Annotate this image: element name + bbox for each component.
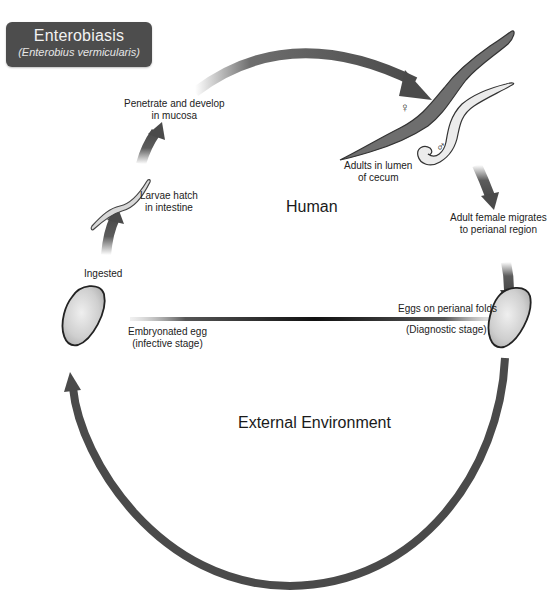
title-subtitle: (Enterobius vermicularis) <box>6 46 152 58</box>
label-eggs-perianal: Eggs on perianal folds <box>398 303 497 315</box>
label-larvae-hatch: Larvae hatch in intestine <box>140 190 198 214</box>
boundary-line <box>130 317 500 321</box>
arrow-adults-to-migrates <box>477 165 499 210</box>
female-symbol-icon: ♀ <box>400 100 410 115</box>
arrow-larvae-to-penetrate <box>141 122 165 164</box>
region-label-human: Human <box>286 198 338 216</box>
diagram-artwork <box>0 0 558 603</box>
life-cycle-diagram: Enterobiasis (Enterobius vermicularis) H… <box>0 0 558 603</box>
male-worm-illustration <box>418 83 514 165</box>
male-symbol-icon: ♂ <box>436 139 446 154</box>
label-ingested: Ingested <box>84 268 122 280</box>
arrow-eggs-to-embryonated <box>64 358 505 586</box>
region-label-external: External Environment <box>238 414 391 432</box>
label-embryonated-egg: Embryonated egg (infective stage) <box>128 326 207 350</box>
label-diagnostic-stage: (Diagnostic stage) <box>406 324 487 336</box>
arrow-penetrate-to-adults <box>195 53 432 100</box>
perianal-egg-illustration <box>489 288 531 347</box>
label-penetrate: Penetrate and develop in mucosa <box>124 98 225 122</box>
label-female-migrates: Adult female migrates to perianal region <box>450 212 547 236</box>
embryonated-egg-illustration <box>63 286 105 345</box>
title-banner: Enterobiasis (Enterobius vermicularis) <box>6 22 152 67</box>
title-main: Enterobiasis <box>6 27 152 45</box>
label-adults-lumen: Adults in lumen of cecum <box>344 160 412 184</box>
